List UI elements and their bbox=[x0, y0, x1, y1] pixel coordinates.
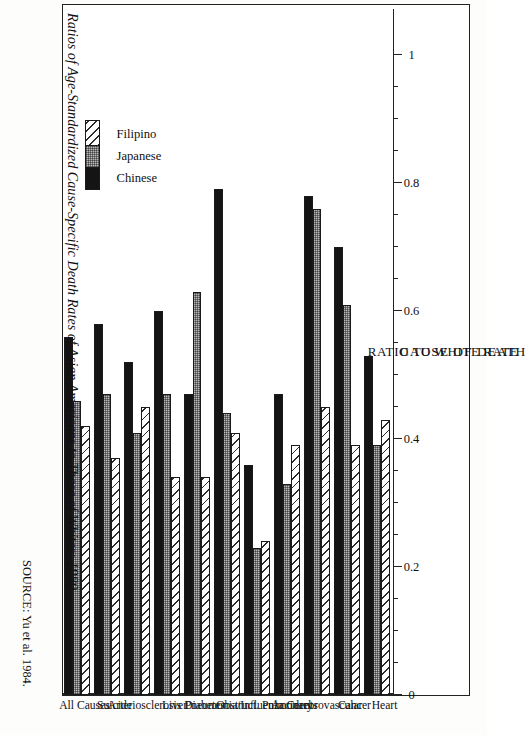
bar-japanese-suicide bbox=[103, 394, 111, 695]
axis-tick bbox=[393, 150, 398, 151]
bar-chinese-obstruct-pulmonary bbox=[244, 465, 252, 695]
bar-filipino-liver bbox=[171, 477, 179, 695]
bar-filipino-suicide bbox=[111, 458, 119, 695]
bar-japanese-pneumonia-influenza bbox=[223, 413, 231, 695]
axis-tick bbox=[393, 406, 398, 407]
bar-japanese-diabetes bbox=[193, 292, 201, 695]
axis-tick bbox=[393, 374, 398, 375]
rotated-chart-canvas: 00.20.40.60.81 HeartCancerCerebrovascula… bbox=[63, 9, 467, 695]
axis-tick bbox=[393, 502, 398, 503]
bar-filipino-cerebrovascular bbox=[321, 407, 329, 695]
bar-chinese-pneumonia-influenza bbox=[214, 189, 222, 695]
axis-tick-label: 0.8 bbox=[398, 176, 426, 191]
source-note-text: SOURCE: Yu et al. 1984. bbox=[19, 560, 34, 687]
bar-filipino-all-causes bbox=[81, 426, 89, 695]
bar-chinese-diabetes bbox=[184, 394, 192, 695]
axis-tick bbox=[393, 86, 398, 87]
bar-filipino-heart bbox=[381, 420, 389, 695]
axis-tick bbox=[393, 470, 398, 471]
axis-tick bbox=[393, 662, 398, 663]
bar-filipino-diabetes bbox=[201, 477, 209, 695]
bar-chinese-cancer bbox=[334, 247, 342, 695]
bar-filipino-cancer bbox=[351, 445, 359, 695]
bar-filipino-obstruct-pulmonary bbox=[261, 541, 269, 695]
axis-tick bbox=[393, 598, 398, 599]
bar-chinese-arteriosclerosis bbox=[124, 362, 132, 695]
legend-swatch-filipino bbox=[85, 120, 100, 146]
bar-chinese-accidents bbox=[274, 394, 282, 695]
axis-tick bbox=[393, 118, 398, 119]
axis-tick-label: 0 bbox=[398, 688, 426, 703]
axis-tick bbox=[393, 214, 398, 215]
category-label-heart: Heart bbox=[372, 699, 398, 712]
bar-japanese-cerebrovascular bbox=[313, 209, 321, 695]
axis-tick-label: 1 bbox=[398, 48, 426, 63]
bar-chinese-heart bbox=[364, 356, 372, 695]
bar-filipino-arteriosclerosis bbox=[141, 407, 149, 695]
axis-tick bbox=[393, 278, 398, 279]
bar-japanese-liver bbox=[163, 394, 171, 695]
axis-tick bbox=[393, 630, 398, 631]
legend-label-filipino: Filipino bbox=[117, 127, 157, 142]
axis-tick bbox=[393, 534, 398, 535]
bar-chinese-suicide bbox=[94, 324, 102, 695]
figure-frame: 00.20.40.60.81 HeartCancerCerebrovascula… bbox=[62, 4, 470, 696]
axis-tick bbox=[393, 246, 398, 247]
bar-japanese-cancer bbox=[343, 305, 351, 695]
category-axis-title-text: CAUSE OF DEATH bbox=[400, 344, 526, 360]
bar-japanese-obstruct-pulmonary bbox=[253, 548, 261, 695]
source-note: SOURCE: Yu et al. 1984. bbox=[8, 560, 48, 730]
bar-japanese-heart bbox=[373, 445, 381, 695]
figure-title: Ratios of Age-Standardized Cause-Specifi… bbox=[64, 13, 81, 703]
legend-label-chinese: Chinese bbox=[117, 171, 158, 186]
bar-japanese-accidents bbox=[283, 484, 291, 695]
bar-filipino-pneumonia-influenza bbox=[231, 433, 239, 695]
category-label-diabetes: Diabetes bbox=[184, 699, 225, 712]
bar-japanese-arteriosclerosis bbox=[133, 433, 141, 695]
bar-chinese-liver bbox=[154, 311, 162, 695]
bar-chinese-cerebrovascular bbox=[304, 196, 312, 695]
axis-tick-label: 0.6 bbox=[398, 304, 426, 319]
axis-tick-label: 0.2 bbox=[398, 560, 426, 575]
axis-tick-label: 0.4 bbox=[398, 432, 426, 447]
bar-filipino-accidents bbox=[291, 445, 299, 695]
legend: ChineseJapaneseFilipino bbox=[85, 70, 215, 190]
legend-label-japanese: Japanese bbox=[117, 149, 162, 164]
